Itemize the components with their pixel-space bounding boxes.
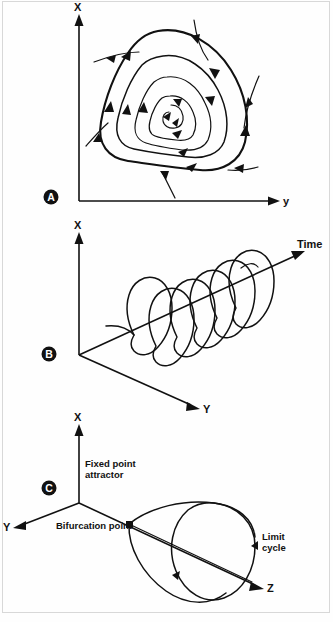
panel-a-x-axis-label: X <box>74 1 82 13</box>
panel-a-arrow-orbit2-left <box>122 104 131 115</box>
panel-a-arrow-outer-bottom <box>186 163 197 172</box>
figure-root: X y <box>0 0 333 622</box>
panel-c-hopf-bifurcation: X Y Z Fixed point attractor Bifurcation … <box>0 407 333 622</box>
panel-a-y-axis-arrow <box>268 197 280 206</box>
panel-a-arrow-orbit3-bottom <box>172 130 182 139</box>
panel-c-bifurcation-point-label: Bifurcation point <box>56 520 133 531</box>
panel-c-fixed-point-label-line2: attractor <box>85 469 124 480</box>
panel-c-limit-cycle-label-line1: Limit <box>262 531 286 542</box>
panel-a-incoming-trajectory-upper-left <box>94 52 139 62</box>
panel-a-orbit-4 <box>149 96 195 140</box>
panel-a-letter: A <box>47 191 55 203</box>
panel-c-x-axis-label: X <box>74 411 82 423</box>
panel-c-fixed-point-label-line1: Fixed point <box>85 458 137 469</box>
panel-a-x-axis-arrow <box>75 14 84 26</box>
panel-c-z-axis-label: Z <box>267 582 274 594</box>
panel-c-letter: C <box>45 482 53 494</box>
panel-b-time-axis-arrow <box>291 251 305 260</box>
panel-a-arrow-outer-right <box>240 125 250 136</box>
panel-a-incoming-trajectory-lower-left <box>86 123 108 146</box>
panel-a-orbit-2 <box>117 56 227 158</box>
panel-c-cone-axis-line <box>131 525 252 582</box>
panel-c-x-axis-arrow <box>75 424 84 436</box>
panel-c-limit-cycle-label-line2: cycle <box>262 542 286 553</box>
panel-b-time-evolution: X Y Time B <box>0 215 333 415</box>
panel-a-arrow-incoming-right <box>245 97 253 108</box>
panel-b-helix-loop-6 <box>229 250 274 327</box>
panel-c-z-axis <box>79 503 255 585</box>
panel-a-arrow-inner-core <box>163 112 171 121</box>
panel-a-phase-portrait: X y <box>0 0 333 215</box>
panel-a-arrow-incoming-bottom-right <box>234 164 244 173</box>
panel-c-z-axis-arrow <box>249 582 264 591</box>
panel-a-arrow-incoming-bottom <box>160 171 169 180</box>
panel-b-time-axis <box>79 255 297 355</box>
panel-c-y-axis-arrow <box>13 521 26 530</box>
panel-a-y-axis-label: y <box>283 195 290 207</box>
panel-a-arrow-inner-core-2 <box>172 118 179 127</box>
panel-b-x-axis-arrow <box>75 232 84 244</box>
panel-a-arrow-orbit2-right <box>205 96 215 106</box>
panel-b-letter: B <box>45 348 53 360</box>
panel-b-x-axis-label: X <box>74 219 82 231</box>
panel-b-time-axis-label: Time <box>297 238 322 250</box>
panel-c-y-axis-label: Y <box>3 521 11 533</box>
